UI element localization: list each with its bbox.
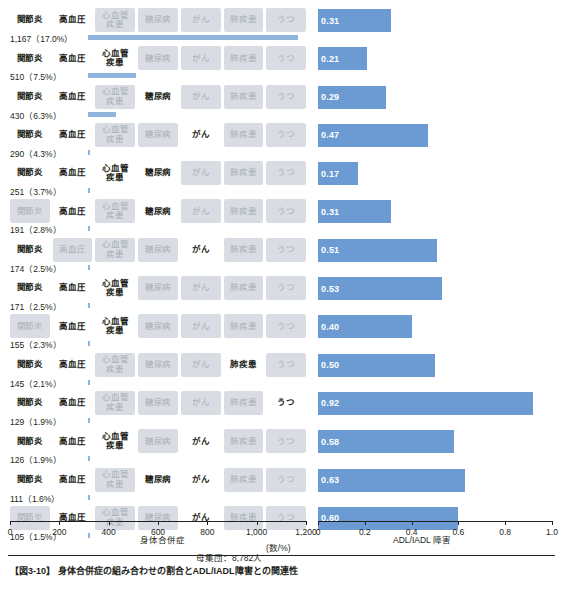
- condition-chip-6: 肺疾患: [224, 161, 264, 185]
- count-bar: [88, 265, 90, 270]
- condition-chip-4: 糖尿病: [138, 123, 178, 147]
- tick-label: 200: [39, 527, 79, 537]
- condition-chip-5: がん: [181, 468, 221, 492]
- condition-chip-4: 糖尿病: [138, 276, 178, 300]
- row-count-label: 191（2.8%）: [10, 223, 62, 235]
- condition-chip-1: 関節炎: [10, 46, 50, 70]
- tick-label: 800: [187, 527, 227, 537]
- condition-chip-2: 高血圧: [53, 429, 93, 453]
- adl-bar: [318, 392, 533, 415]
- tick-label: 0: [298, 527, 338, 537]
- condition-chip-6: 肺疾患: [224, 199, 264, 223]
- condition-chip-2: 高血圧: [53, 161, 93, 185]
- condition-chip-3: 心血管 疾患: [95, 468, 135, 492]
- condition-chip-group: 関節炎高血圧心血管 疾患糖尿病がん肺疾患うつ: [10, 85, 306, 109]
- condition-chip-7: うつ: [266, 429, 306, 453]
- condition-chip-3: 心血管 疾患: [95, 276, 135, 300]
- count-bar: [88, 73, 136, 78]
- population-note: 母集団：8,782人: [196, 551, 262, 563]
- condition-chip-5: がん: [181, 314, 221, 338]
- condition-chip-3: 心血管 疾患: [95, 8, 135, 32]
- row-count-label: 145（2.1%）: [10, 377, 62, 389]
- condition-chip-group: 関節炎高血圧心血管 疾患糖尿病がん肺疾患うつ: [10, 314, 306, 338]
- condition-chip-3: 心血管 疾患: [95, 85, 135, 109]
- count-bar: [88, 456, 90, 461]
- tick-mark: [158, 521, 159, 525]
- condition-row: 関節炎高血圧心血管 疾患糖尿病がん肺疾患うつ191（2.8%）: [10, 199, 306, 237]
- condition-chip-2: 高血圧: [53, 353, 93, 377]
- condition-chip-4: 糖尿病: [138, 85, 178, 109]
- tick-label: 1,000: [237, 527, 277, 537]
- condition-chip-7: うつ: [266, 8, 306, 32]
- condition-row: 関節炎高血圧心血管 疾患糖尿病がん肺疾患うつ111（1.6%）: [10, 468, 306, 506]
- condition-chip-1: 関節炎: [10, 238, 50, 262]
- condition-chip-4: 糖尿病: [138, 199, 178, 223]
- adl-value-label: 0.51: [321, 239, 339, 262]
- condition-row: 関節炎高血圧心血管 疾患糖尿病がん肺疾患うつ145（2.1%）: [10, 353, 306, 391]
- tick-label: 0.2: [345, 527, 385, 537]
- condition-chip-7: うつ: [266, 468, 306, 492]
- condition-chip-4: 糖尿病: [138, 429, 178, 453]
- condition-row: 関節炎高血圧心血管 疾患糖尿病がん肺疾患うつ129（1.9%）: [10, 391, 306, 429]
- condition-chip-group: 関節炎高血圧心血管 疾患糖尿病がん肺疾患うつ: [10, 46, 306, 70]
- condition-chip-group: 関節炎高血圧心血管 疾患糖尿病がん肺疾患うつ: [10, 468, 306, 492]
- left-x-axis-title: 身体合併症: [140, 533, 185, 545]
- condition-chip-1: 関節炎: [10, 391, 50, 415]
- condition-chip-5: がん: [181, 46, 221, 70]
- condition-chip-group: 関節炎高血圧心血管 疾患糖尿病がん肺疾患うつ: [10, 123, 306, 147]
- count-bar: [88, 495, 90, 500]
- condition-row: 関節炎高血圧心血管 疾患糖尿病がん肺疾患うつ174（2.5%）: [10, 238, 306, 276]
- condition-chip-2: 高血圧: [53, 8, 93, 32]
- row-count-label: 174（2.5%）: [10, 262, 62, 274]
- condition-row: 関節炎高血圧心血管 疾患糖尿病がん肺疾患うつ126（1.9%）: [10, 429, 306, 467]
- adl-row: 0.63: [318, 468, 552, 506]
- adl-row: 0.53: [318, 276, 552, 314]
- condition-chip-3: 心血管 疾患: [95, 199, 135, 223]
- condition-chip-3: 心血管 疾患: [95, 353, 135, 377]
- tick-label: 0: [0, 527, 30, 537]
- right-chart-panel: 0.310.210.290.470.170.310.510.530.400.50…: [318, 8, 552, 520]
- condition-chip-group: 関節炎高血圧心血管 疾患糖尿病がん肺疾患うつ: [10, 238, 306, 262]
- condition-chip-3: 心血管 疾患: [95, 314, 135, 338]
- adl-row: 0.92: [318, 391, 552, 429]
- condition-chip-2: 高血圧: [53, 314, 93, 338]
- tick-label: 0.8: [485, 527, 525, 537]
- condition-chip-3: 心血管 疾患: [95, 161, 135, 185]
- adl-value-label: 0.92: [321, 392, 339, 415]
- adl-value-label: 0.21: [321, 47, 339, 70]
- condition-chip-4: 糖尿病: [138, 353, 178, 377]
- condition-chip-5: がん: [181, 238, 221, 262]
- left-chart-panel: 関節炎高血圧心血管 疾患糖尿病がん肺疾患うつ1,167（17.0%）関節炎高血圧…: [10, 8, 306, 520]
- condition-chip-1: 関節炎: [10, 276, 50, 300]
- condition-chip-7: うつ: [266, 123, 306, 147]
- row-count-label: 155（2.3%）: [10, 338, 62, 350]
- condition-chip-6: 肺疾患: [224, 429, 264, 453]
- condition-chip-4: 糖尿病: [138, 161, 178, 185]
- condition-chip-2: 高血圧: [53, 85, 93, 109]
- count-bar: [88, 418, 90, 423]
- row-count-label: 251（3.7%）: [10, 185, 62, 197]
- adl-row: 0.47: [318, 123, 552, 161]
- tick-mark: [257, 521, 258, 525]
- condition-chip-1: 関節炎: [10, 161, 50, 185]
- count-bar: [88, 188, 90, 193]
- count-bar: [88, 112, 116, 117]
- condition-chip-4: 糖尿病: [138, 314, 178, 338]
- condition-chip-7: うつ: [266, 199, 306, 223]
- left-x-axis-unit: (数/%): [266, 541, 291, 553]
- condition-chip-6: 肺疾患: [224, 123, 264, 147]
- adl-row: 0.51: [318, 238, 552, 276]
- condition-chip-3: 心血管 疾患: [95, 238, 135, 262]
- condition-chip-1: 関節炎: [10, 123, 50, 147]
- condition-chip-6: 肺疾患: [224, 468, 264, 492]
- condition-chip-1: 関節炎: [10, 429, 50, 453]
- adl-row: 0.40: [318, 314, 552, 352]
- adl-value-label: 0.31: [321, 9, 339, 32]
- condition-chip-group: 関節炎高血圧心血管 疾患糖尿病がん肺疾患うつ: [10, 353, 306, 377]
- row-count-label: 1,167（17.0%）: [10, 32, 73, 44]
- tick-mark: [207, 521, 208, 525]
- condition-chip-5: がん: [181, 8, 221, 32]
- count-bar: [88, 303, 90, 308]
- condition-chip-6: 肺疾患: [224, 391, 264, 415]
- condition-chip-7: うつ: [266, 276, 306, 300]
